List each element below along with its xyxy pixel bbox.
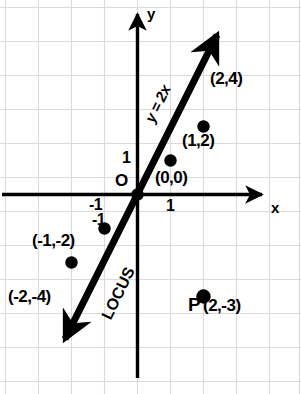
origin-label: O bbox=[115, 172, 128, 189]
point-neg2-neg4 bbox=[65, 256, 77, 268]
point-1-2 bbox=[164, 154, 176, 166]
y-tick-positive-one: 1 bbox=[122, 150, 130, 166]
x-tick-positive-one: 1 bbox=[166, 198, 174, 214]
label-point-p-coords: (2,-3) bbox=[203, 297, 241, 314]
y-axis-label: y bbox=[147, 6, 155, 21]
label-point-neg2-neg4: (-2,-4) bbox=[8, 288, 51, 305]
label-point-0-0: (0,0) bbox=[155, 169, 187, 186]
label-point-2-4: (2,4) bbox=[210, 70, 242, 87]
x-axis-label: x bbox=[271, 200, 279, 215]
x-tick-negative-one: -1 bbox=[89, 197, 102, 213]
graph-figure: y x y = 2x LOCUS (2,4) (1,2) (0,0) (-1,-… bbox=[0, 0, 301, 394]
plot-layer bbox=[0, 0, 301, 394]
label-point-neg1-neg2: (-1,-2) bbox=[32, 232, 75, 249]
label-point-p-name: P bbox=[188, 295, 200, 314]
y-tick-negative-one: -1 bbox=[92, 212, 105, 228]
label-point-1-2: (1,2) bbox=[182, 132, 214, 149]
point-0-0 bbox=[131, 188, 143, 200]
